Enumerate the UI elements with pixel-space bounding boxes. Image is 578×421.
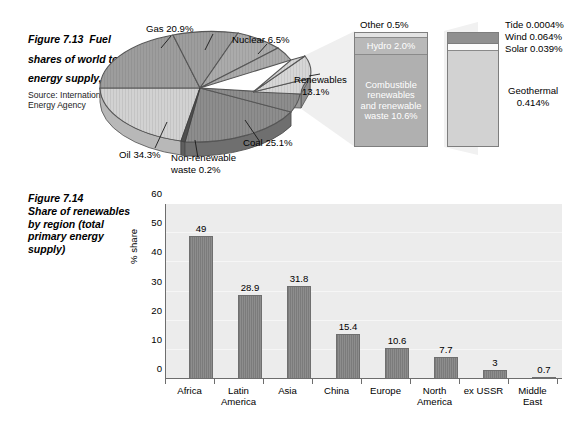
x-tick xyxy=(557,379,558,384)
y-tick-20: 20 xyxy=(151,304,162,315)
pie-label-renewables: Renewables 13.1% xyxy=(294,74,347,97)
gridline xyxy=(165,261,562,262)
x-tick xyxy=(361,379,362,384)
gridline xyxy=(165,291,562,292)
x-tick xyxy=(312,379,313,384)
bar-china xyxy=(336,334,360,379)
x-label-china: China xyxy=(324,385,349,396)
column-2-label-tide: Tide 0.0004% xyxy=(505,19,564,31)
bar-value-latin-america: 28.9 xyxy=(241,282,260,293)
other-breakdown-column xyxy=(447,32,499,147)
figure-7-14-caption-text: Share of renewables by region (total pri… xyxy=(28,205,138,256)
segment-hydro: Hydro 2.0% xyxy=(355,38,427,55)
bar-value-africa: 49 xyxy=(196,223,207,234)
column-2-label-geothermal: Geothermal 0.414% xyxy=(508,85,558,109)
bar-value-europe: 10.6 xyxy=(388,335,407,346)
column-1-other-label: Other 0.5% xyxy=(360,19,409,31)
segment-solar xyxy=(448,44,498,51)
y-tick-60: 60 xyxy=(151,188,162,199)
gridline xyxy=(165,349,562,350)
x-label-north-america: North America xyxy=(417,385,452,408)
y-tick-50: 50 xyxy=(151,217,162,228)
segment-tide-wind xyxy=(448,33,498,44)
bar-chart-plot-area: 0 10 20 30 40 50 60 49 28.9 31.8 15.4 10… xyxy=(165,204,562,379)
figure-7-14-caption: Figure 7.14 Share of renewables by regio… xyxy=(28,192,138,256)
bar-latin-america xyxy=(238,295,262,379)
bar-north-america xyxy=(434,357,458,380)
figure-7-14-title: Figure 7.14 xyxy=(28,192,138,205)
renewables-breakdown-column: Hydro 2.0% Combustible renewables and re… xyxy=(354,32,428,147)
bar-value-ex-ussr: 3 xyxy=(492,357,497,368)
column-2-label-wind: Wind 0.064% xyxy=(505,31,562,43)
x-label-europe: Europe xyxy=(370,385,401,396)
segment-combustible-renewables: Combustible renewables and renewable was… xyxy=(355,55,427,146)
x-tick xyxy=(508,379,509,384)
x-tick xyxy=(214,379,215,384)
y-tick-0: 0 xyxy=(157,363,162,374)
pie-label-oil: Oil 34.3% xyxy=(119,149,161,161)
bar-africa xyxy=(189,236,213,379)
gridline xyxy=(165,320,562,321)
y-tick-10: 10 xyxy=(151,333,162,344)
x-label-ex-ussr: ex USSR xyxy=(464,385,503,396)
x-label-middle-east: Middle East xyxy=(518,385,546,408)
bar-value-asia: 31.8 xyxy=(290,273,309,284)
bar-value-middle-east: 0.7 xyxy=(537,364,550,375)
y-axis xyxy=(165,204,166,380)
bar-asia xyxy=(287,286,311,379)
bar-ex-ussr xyxy=(483,370,507,379)
y-tick-40: 40 xyxy=(151,246,162,257)
pie-label-gas: Gas 20.9% xyxy=(146,23,193,35)
pie-label-renewables-name: Renewables xyxy=(294,74,347,85)
gridline xyxy=(165,232,562,233)
figure-7-14: Figure 7.14 Share of renewables by regio… xyxy=(0,182,578,421)
pie-label-coal: Coal 25.1% xyxy=(243,137,293,149)
x-tick xyxy=(410,379,411,384)
x-label-latin-america: Latin America xyxy=(221,385,256,408)
x-tick xyxy=(263,379,264,384)
pie-label-non-renewable-waste: Non-renewablewaste 0.2% xyxy=(171,152,236,175)
y-axis-label: % share xyxy=(128,229,139,264)
bar-value-china: 15.4 xyxy=(339,321,358,332)
x-tick xyxy=(459,379,460,384)
bar-europe xyxy=(385,348,409,379)
pie-label-nuclear: Nuclear 6.5% xyxy=(232,34,290,46)
x-label-africa: Africa xyxy=(177,385,202,396)
bar-value-north-america: 7.7 xyxy=(439,344,452,355)
y-tick-30: 30 xyxy=(151,275,162,286)
figure-7-13: Figure 7.13 Fuel shares of world total e… xyxy=(0,0,578,182)
segment-geothermal xyxy=(448,51,498,146)
pie-label-renewables-value: 13.1% xyxy=(294,86,329,98)
x-label-asia: Asia xyxy=(278,385,297,396)
x-tick xyxy=(165,379,166,384)
bar-middle-east xyxy=(532,377,556,379)
column-2-label-solar: Solar 0.039% xyxy=(505,43,563,55)
